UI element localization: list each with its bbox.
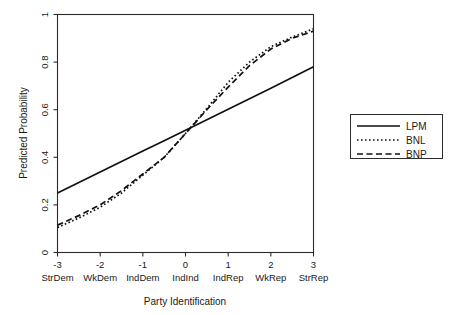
x-axis-title: Party Identification	[144, 296, 226, 307]
x-tick-label: -2	[96, 259, 104, 270]
y-tick-label: 0.8	[39, 55, 50, 68]
x-tick-label: 3	[311, 259, 316, 270]
series-line-lpm	[58, 67, 314, 193]
y-tick-label: 0.2	[39, 198, 50, 211]
legend-label-bnp: BNP	[406, 149, 427, 160]
x-tick-label: 2	[268, 259, 273, 270]
x-category-label: IndInd	[172, 272, 198, 283]
y-tick-label: 1	[39, 12, 50, 17]
legend: LPMBNLBNP	[351, 115, 443, 160]
series-line-bnl	[58, 29, 314, 228]
legend-label-bnl: BNL	[406, 135, 426, 146]
y-tick-label: 0.6	[39, 103, 50, 116]
x-tick-label: -3	[53, 259, 61, 270]
x-axis-ticks: -3-2-10123	[53, 253, 316, 270]
chart-figure: 00.20.40.60.81 -3-2-10123 StrDemWkDemInd…	[0, 0, 455, 315]
y-tick-label: 0	[39, 250, 50, 255]
x-axis-category-labels: StrDemWkDemIndDemIndIndIndRepWkRepStrRep	[41, 272, 328, 283]
series-line-bnp	[58, 31, 314, 225]
y-axis-ticks: 00.20.40.60.81	[39, 12, 58, 255]
x-category-label: IndDem	[126, 272, 159, 283]
x-tick-label: 1	[226, 259, 231, 270]
x-category-label: WkRep	[255, 272, 286, 283]
x-category-label: WkDem	[83, 272, 117, 283]
y-tick-label: 0.4	[39, 151, 50, 164]
x-category-label: IndRep	[213, 272, 244, 283]
x-category-label: StrDem	[41, 272, 73, 283]
y-axis-title: Predicted Probability	[18, 87, 29, 179]
series-lines	[58, 29, 314, 228]
legend-label-lpm: LPM	[406, 121, 427, 132]
legend-frame	[351, 115, 443, 159]
predicted-probability-line-chart: 00.20.40.60.81 -3-2-10123 StrDemWkDemInd…	[0, 0, 455, 315]
x-tick-label: 0	[183, 259, 188, 270]
x-category-label: StrRep	[299, 272, 329, 283]
x-tick-label: -1	[139, 259, 147, 270]
